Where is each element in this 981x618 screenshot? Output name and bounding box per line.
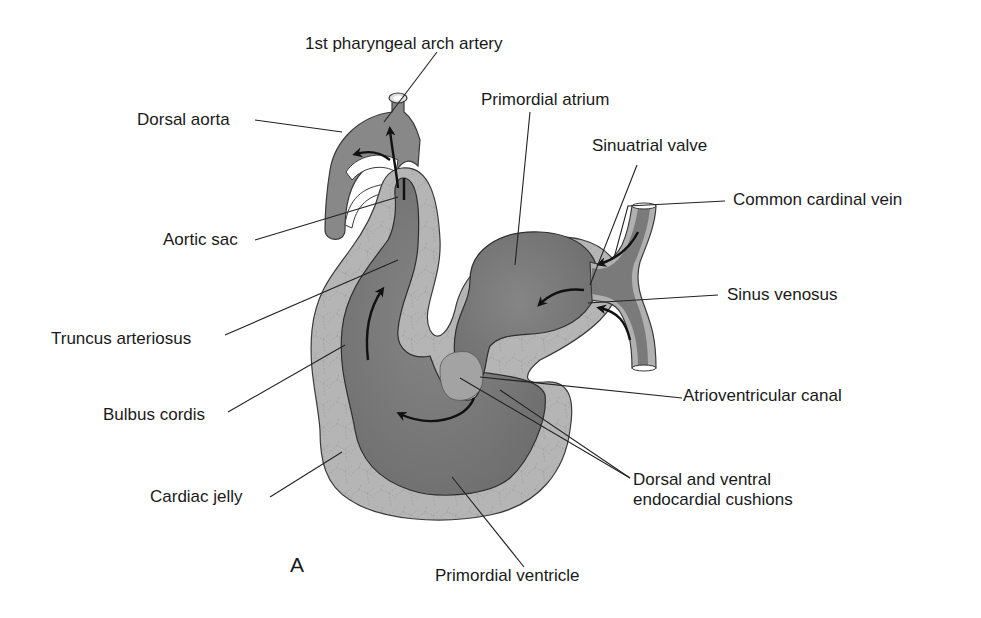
sinus-venosus-shape	[590, 203, 656, 371]
label-sinus-venosus: Sinus venosus	[727, 285, 838, 305]
panel-letter: A	[290, 555, 304, 575]
label-common-cardinal-vein: Common cardinal vein	[733, 190, 902, 210]
label-aortic-sac: Aortic sac	[163, 230, 238, 250]
embryonic-heart-diagram: 1st pharyngeal arch artery Dorsal aorta …	[0, 0, 981, 618]
label-dorsal-aorta: Dorsal aorta	[137, 110, 230, 130]
label-atrioventricular-canal: Atrioventricular canal	[683, 386, 842, 406]
label-endocardial-cushions-line1: Dorsal and ventral	[633, 470, 771, 490]
label-1st-pharyngeal-arch-artery: 1st pharyngeal arch artery	[305, 34, 503, 54]
label-primordial-atrium: Primordial atrium	[481, 90, 609, 110]
label-bulbus-cordis: Bulbus cordis	[103, 405, 205, 425]
label-truncus-arteriosus: Truncus arteriosus	[51, 329, 191, 349]
label-endocardial-cushions-line2: endocardial cushions	[633, 490, 793, 510]
label-primordial-ventricle: Primordial ventricle	[435, 566, 580, 586]
label-cardiac-jelly: Cardiac jelly	[150, 487, 243, 507]
label-sinuatrial-valve: Sinuatrial valve	[592, 136, 707, 156]
